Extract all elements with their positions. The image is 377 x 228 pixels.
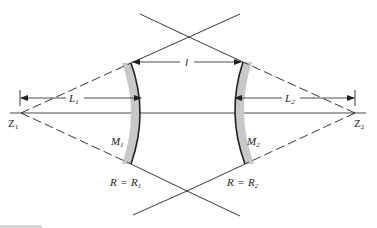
- ray-top-cross-continue-right: [189, 14, 240, 37]
- ray-lower-right-solid: [187, 164, 245, 191]
- label-z2: Z2: [354, 117, 365, 131]
- label-r1: R=R1: [109, 176, 141, 190]
- label-m2: M2: [246, 135, 260, 149]
- resonator-diagram: l L1 L2 Z1 Z2 M1 M2 R=R1 R=R2: [0, 0, 377, 228]
- ray-upper-right-solid: [189, 37, 243, 62]
- ray-bottom-cross-continue-right: [187, 191, 240, 216]
- label-spacing: l: [185, 56, 188, 68]
- mirror-m1-shade: [122, 63, 140, 164]
- ray-z2-upper-dashed: [243, 62, 355, 113]
- label-r2: R=R2: [226, 176, 259, 190]
- caption-fragment: [0, 225, 42, 228]
- ray-bottom-cross-continue-left: [133, 191, 187, 215]
- ray-z2-lower-dashed: [245, 113, 355, 164]
- label-l2: L2: [284, 92, 295, 106]
- label-m1: M1: [110, 135, 124, 149]
- diagram-svg: l L1 L2 Z1 Z2 M1 M2 R=R1 R=R2: [0, 0, 377, 228]
- label-z1: Z1: [8, 117, 19, 131]
- label-l1: L1: [68, 92, 79, 106]
- ray-top-cross-continue-left: [140, 14, 189, 37]
- ray-upper-left-solid: [131, 37, 189, 63]
